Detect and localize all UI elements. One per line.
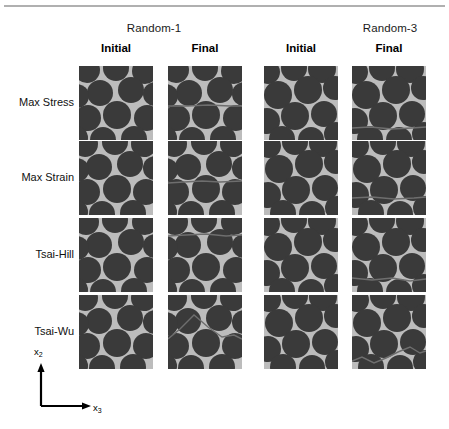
row-label-max-strain: Max Strain [4, 171, 74, 183]
axis-arrowhead-right [82, 402, 91, 409]
microstructure-tile [168, 66, 242, 140]
row-label-tsai-hill: Tsai-Hill [4, 248, 74, 260]
microstructure-tile [168, 141, 242, 215]
row-label-max-stress: Max Stress [4, 96, 74, 108]
figure-panel: Random-1 Random-3 Initial Final Initial … [0, 0, 449, 429]
column-header-final-random-3: Final [344, 42, 434, 54]
microstructure-tile [352, 141, 426, 215]
top-divider-rule [4, 5, 445, 7]
microstructure-tile [352, 218, 426, 292]
microstructure-tile [352, 295, 426, 369]
microstructure-tile [168, 295, 242, 369]
coordinate-axis-indicator: x2 x3 [36, 356, 106, 416]
group-header-random-3: Random-3 [330, 22, 449, 34]
column-header-final-random-1: Final [160, 42, 250, 54]
microstructure-tile [79, 66, 153, 140]
microstructure-tile [264, 295, 338, 369]
microstructure-tile [352, 66, 426, 140]
microstructure-tile [264, 66, 338, 140]
microstructure-tile [79, 218, 153, 292]
column-header-initial-random-1: Initial [71, 42, 161, 54]
axis-arrowhead-up [37, 363, 44, 372]
axis-label-x3: x3 [93, 402, 102, 413]
microstructure-tile [264, 218, 338, 292]
row-label-tsai-wu: Tsai-Wu [4, 325, 74, 337]
microstructure-tile [168, 218, 242, 292]
group-header-random-1: Random-1 [94, 22, 214, 34]
microstructure-tile [79, 141, 153, 215]
axis-label-x2: x2 [34, 346, 43, 357]
microstructure-tile [264, 141, 338, 215]
column-header-initial-random-3: Initial [256, 42, 346, 54]
